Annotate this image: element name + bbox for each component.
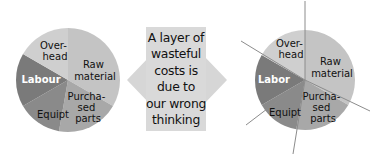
center-line-4: due to — [157, 79, 195, 96]
right-label-overhead: Over- head — [276, 38, 306, 60]
center-line-5: our wrong — [146, 96, 206, 113]
left-label-equipt: Equipt — [37, 109, 69, 120]
right-label-equipt: Equipt — [269, 107, 301, 118]
center-line-3: costs is — [154, 63, 198, 80]
center-message-box: A layer of wasteful costs is due to our … — [146, 27, 206, 131]
center-line-6: thinking — [152, 112, 200, 129]
right-label-labor: Labor — [258, 74, 290, 85]
left-label-overhead: Over- head — [40, 40, 70, 62]
left-pie-chart: Raw material Purcha- sed parts Equipt La… — [16, 28, 120, 132]
diagram-stage: Raw material Purcha- sed parts Equipt La… — [0, 0, 390, 163]
left-label-labour: Labour — [21, 74, 60, 85]
center-line-1: A layer of — [148, 30, 204, 47]
center-line-2: wasteful — [151, 46, 201, 63]
right-pie-chart: Raw material Purcha- sed parts Equipt La… — [241, 1, 370, 154]
